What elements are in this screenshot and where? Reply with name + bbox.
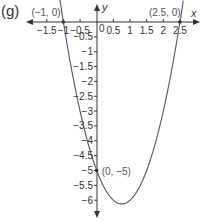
y-tick-label: −1.5 <box>73 61 93 72</box>
x-axis-left-arrow-icon <box>26 19 33 25</box>
x-tick-label: −1.5 <box>37 25 57 36</box>
x-tick-label: 0.5 <box>106 25 120 36</box>
x-axis-label: x <box>190 7 197 19</box>
y-ticks: −0.5−1−1.5−2−2.5−3−3.5−4−4.5−5−5.5−6 <box>73 31 97 205</box>
x-tick-label: 2.5 <box>173 25 187 36</box>
point-label: (−1, 0) <box>31 7 60 18</box>
point-marker <box>95 169 99 173</box>
x-tick-label: 1 <box>127 25 133 36</box>
x-tick-label: 2 <box>161 25 167 36</box>
point-marker <box>178 20 182 24</box>
point-label: (2.5, 0) <box>149 7 181 18</box>
y-tick-label: −5 <box>82 165 94 176</box>
y-tick-label: −1 <box>82 46 94 57</box>
y-tick-label: −6 <box>82 195 94 206</box>
y-tick-label: −2 <box>82 76 94 87</box>
parabola-chart: (g) x −1.5−1−0.50.511.522.5 y 0 −0.5−1−1… <box>0 0 202 222</box>
y-tick-label: −0.5 <box>73 31 93 42</box>
y-tick-label: −5.5 <box>73 180 93 191</box>
y-axis-up-arrow-icon <box>94 4 100 11</box>
x-axis-right-arrow-icon <box>193 19 200 25</box>
point-label: (0, −5) <box>102 166 131 177</box>
point-marker <box>62 20 66 24</box>
y-axis-down-arrow-icon <box>94 211 100 218</box>
y-tick-label: −3 <box>82 106 94 117</box>
part-label: (g) <box>1 2 19 19</box>
y-axis-label: y <box>101 1 109 13</box>
x-tick-label: 1.5 <box>140 25 154 36</box>
origin-label: 0 <box>99 23 105 34</box>
